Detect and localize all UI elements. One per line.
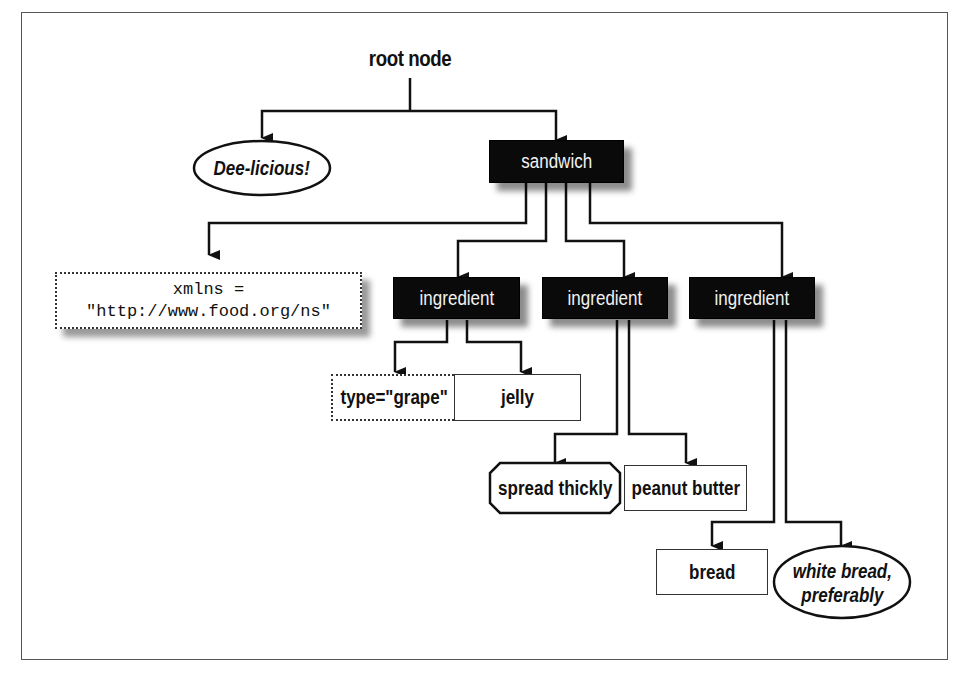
comment-line-1: white bread, [792, 559, 891, 583]
namespace-line-1: xmlns = [173, 279, 244, 301]
text-value: bread [689, 561, 735, 584]
element-label: sandwich [521, 150, 592, 173]
element-node-ingredient-1: ingredient [393, 277, 520, 319]
element-label: ingredient [419, 287, 494, 310]
text-value: jelly [501, 386, 534, 409]
edge-ingredient2-peanut [629, 320, 686, 463]
text-value: peanut butter [631, 477, 740, 500]
comment-text: Dee-licious! [214, 157, 310, 180]
pi-text: spread thickly [498, 477, 612, 500]
edge-ingredient3-bread [712, 320, 774, 546]
edge-ingredient3-whitebread [786, 320, 841, 546]
element-label: ingredient [568, 287, 643, 310]
edge-root-sandwich [410, 111, 556, 140]
edge-sandwich-ingredient2 [566, 183, 624, 277]
namespace-line-2: "http://www.food.org/ns" [86, 301, 331, 323]
comment-line-2: preferably [801, 583, 883, 607]
edge-root-comment [262, 111, 410, 138]
element-node-ingredient-3: ingredient [689, 277, 815, 319]
attribute-text: type="grape" [341, 386, 448, 409]
edge-ingredient1-type [395, 320, 447, 372]
edge-sandwich-ingredient1 [458, 183, 546, 277]
pi-node-spread-thickly: spread thickly [490, 463, 620, 513]
element-node-sandwich: sandwich [489, 140, 624, 183]
comment-node-white-bread: white bread, preferably [776, 550, 908, 616]
edge-sandwich-ingredient3 [590, 183, 782, 277]
element-label: ingredient [715, 287, 790, 310]
root-node-text: root node [369, 46, 451, 72]
text-node-bread: bread [656, 549, 768, 595]
namespace-node-xmlns: xmlns = "http://www.food.org/ns" [55, 272, 362, 329]
root-node-label: root node [359, 42, 461, 76]
text-node-jelly: jelly [454, 374, 581, 421]
element-node-ingredient-2: ingredient [542, 277, 668, 319]
attribute-node-type: type="grape" [331, 374, 458, 421]
text-node-peanut-butter: peanut butter [624, 465, 747, 511]
edge-ingredient1-jelly [467, 320, 521, 372]
comment-node-deelicious: Dee-licious! [196, 145, 328, 191]
